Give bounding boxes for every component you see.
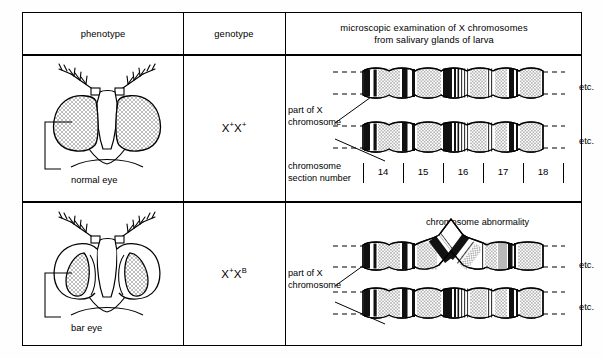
section-caption-line1: chromosome <box>288 161 351 173</box>
chromosome-abnormal-bottom <box>323 283 585 323</box>
comparison-table: phenotype genotype microscopic examinati… <box>22 12 582 346</box>
genotype-normal-sup2: + <box>242 120 246 129</box>
header-row-divider <box>23 54 581 56</box>
chromosome-normal-bottom <box>323 117 585 157</box>
section-number-caption: chromosome section number <box>288 161 351 184</box>
etc-normal-bottom: etc. <box>579 135 594 146</box>
genotype-bar-base2: X <box>234 268 242 280</box>
row-divider <box>23 201 581 203</box>
header-microscopy-line2: from salivary glands of larva <box>374 34 494 46</box>
column-divider-1 <box>183 13 184 345</box>
section-number-15: 15 <box>403 166 443 177</box>
etc-normal-top: etc. <box>579 81 594 92</box>
section-number-14: 14 <box>363 166 403 177</box>
section-tick <box>563 163 564 183</box>
genotype-bar-sup2: B <box>242 266 247 275</box>
normal-fly-head-drawing <box>31 57 183 179</box>
section-caption-line2: section number <box>288 173 351 185</box>
diagram-sheet: phenotype genotype microscopic examinati… <box>0 0 603 358</box>
etc-bar-top: etc. <box>579 259 594 270</box>
header-phenotype: phenotype <box>23 13 183 54</box>
header-genotype-label: genotype <box>214 28 253 40</box>
genotype-bar: X+XB <box>183 266 285 280</box>
normal-eye-label: normal eye <box>71 174 117 186</box>
section-number-scale: 14 15 16 17 18 <box>363 161 583 187</box>
etc-bar-bottom: etc. <box>579 301 594 312</box>
header-microscopy-line1: microscopic examination of X chromosomes <box>340 22 527 34</box>
bar-fly-head-drawing <box>31 205 183 327</box>
bar-eye-label: bar eye <box>71 322 102 334</box>
header-microscopy: microscopic examination of X chromosomes… <box>285 13 583 54</box>
header-phenotype-label: phenotype <box>81 28 126 40</box>
section-number-16: 16 <box>443 166 483 177</box>
chromosome-normal-top <box>323 63 585 103</box>
section-number-17: 17 <box>483 166 523 177</box>
genotype-normal: X+X+ <box>183 120 285 134</box>
genotype-normal-base2: X <box>234 122 242 134</box>
header-genotype: genotype <box>183 13 285 54</box>
section-number-18: 18 <box>523 166 563 177</box>
genotype-normal-base1: X <box>222 122 230 134</box>
chromosome-abnormal-top <box>323 217 585 275</box>
